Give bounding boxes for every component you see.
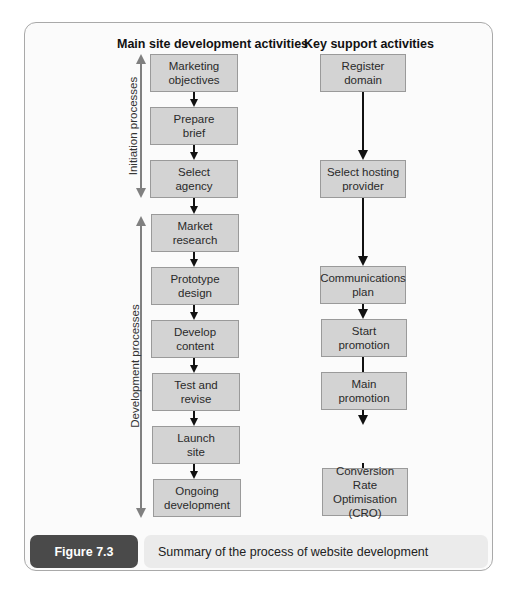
figure-frame	[24, 22, 493, 571]
development-processes-label: Development processes	[129, 301, 141, 431]
step-launch-site: Launch site	[152, 426, 240, 464]
step-test-and-revise: Test and revise	[152, 373, 240, 411]
step-prototype-design: Prototype design	[151, 267, 239, 305]
figure-caption-text: Summary of the process of website develo…	[144, 535, 488, 568]
step-select-agency: Select agency	[150, 160, 238, 198]
step-develop-content: Develop content	[151, 320, 239, 358]
step-ongoing-development: Ongoing development	[153, 479, 241, 517]
step-marketing-objectives: Marketing objectives	[150, 54, 238, 92]
step-prepare-brief: Prepare brief	[150, 107, 238, 145]
step-register-domain: Register domain	[320, 54, 406, 92]
figure-number-label: Figure 7.3	[30, 535, 138, 568]
step-select-hosting-provider: Select hosting provider	[320, 160, 406, 198]
step-conversion-rate-optimisation: Conversion Rate Optimisation (CRO)	[322, 468, 408, 516]
support-column-header: Key support activities	[304, 37, 434, 51]
step-start-promotion: Start promotion	[321, 319, 407, 357]
figure-caption-bar: Figure 7.3 Summary of the process of web…	[28, 535, 488, 568]
step-communications-plan: Communications plan	[320, 266, 406, 304]
step-main-promotion: Main promotion	[321, 372, 407, 410]
main-column-header: Main site development activities	[117, 37, 308, 51]
initiation-processes-label: Initiation processes	[127, 71, 139, 181]
step-market-research: Market research	[151, 214, 239, 252]
